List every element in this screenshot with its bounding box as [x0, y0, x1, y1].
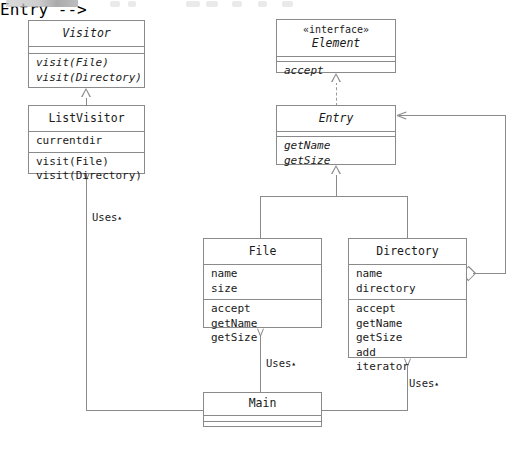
- class-box-element[interactable]: «interface» Element accept: [276, 19, 396, 73]
- method-item: add: [356, 346, 466, 361]
- class-box-listvisitor[interactable]: ListVisitor currentdir visit(File) visit…: [28, 105, 145, 174]
- class-name-directory: Directory: [349, 239, 466, 264]
- methods-compartment-entry: getName getSize: [277, 136, 395, 171]
- dependency-main-listvisitor-horizontal: [86, 410, 204, 411]
- methods-compartment-main: [204, 421, 321, 427]
- attribute-item: name: [211, 267, 321, 282]
- scan-ghost-mark: [128, 1, 136, 7]
- attribute-item: directory: [356, 282, 466, 297]
- dependency-main-listvisitor-vertical: [86, 182, 87, 410]
- dependency-main-directory-horizontal: [322, 410, 407, 411]
- class-name-listvisitor: ListVisitor: [29, 106, 144, 131]
- class-box-entry[interactable]: Entry getName getSize: [276, 105, 396, 165]
- aggregation-arrowhead-entry: [397, 111, 406, 120]
- class-box-file[interactable]: File name size accept getName getSize: [203, 238, 322, 328]
- scan-ghost-mark: [110, 1, 120, 7]
- scan-ghost-mark: [258, 1, 267, 7]
- method-item: getName: [356, 317, 466, 332]
- method-item: visit(Directory): [36, 169, 144, 184]
- methods-compartment-file: accept getName getSize: [204, 299, 321, 349]
- scan-ghost-mark: [282, 1, 293, 7]
- stereotype-interface: «interface»: [277, 23, 395, 36]
- generalization-file-branch: [260, 196, 261, 238]
- method-item: visit(Directory): [36, 71, 144, 86]
- method-item: getSize: [356, 331, 466, 346]
- method-item: getName: [211, 317, 321, 332]
- generalization-arrowhead-inner: [82, 90, 90, 98]
- method-item: getSize: [284, 154, 395, 169]
- methods-compartment-directory: accept getName getSize add iterator: [349, 299, 466, 378]
- uses-marker-icon: ▴: [291, 358, 296, 369]
- class-name-compartment: File: [204, 239, 321, 264]
- uses-marker-icon: ▴: [117, 212, 122, 223]
- scan-grey-bar: [6, 0, 78, 7]
- method-item: accept: [356, 302, 466, 317]
- attribute-item: size: [211, 282, 321, 297]
- class-box-main[interactable]: Main: [203, 392, 322, 427]
- class-name-compartment: Entry: [277, 106, 395, 131]
- uses-text: Uses: [409, 377, 434, 389]
- uses-text: Uses: [92, 211, 117, 223]
- methods-compartment-element: accept: [277, 61, 395, 82]
- method-item: visit(File): [36, 56, 144, 71]
- uses-marker-icon: ▴: [434, 378, 439, 389]
- class-name-compartment: «interface» Element: [277, 20, 395, 56]
- scan-ghost-mark: [232, 1, 242, 7]
- attributes-compartment-listvisitor: currentdir: [29, 131, 144, 152]
- uses-label-file: Uses▴: [266, 358, 296, 369]
- realization-entry-element-line: [336, 82, 337, 106]
- uses-label-directory: Uses▴: [409, 378, 439, 389]
- method-item: accept: [211, 302, 321, 317]
- method-item: getSize: [211, 331, 321, 346]
- generalization-crossbar: [260, 196, 408, 197]
- class-box-directory[interactable]: Directory name directory accept getName …: [348, 238, 467, 358]
- class-name-main: Main: [204, 393, 321, 415]
- methods-compartment-visitor: visit(File) visit(Directory): [29, 53, 144, 88]
- generalization-directory-branch: [407, 196, 408, 238]
- aggregation-segment-right: [473, 273, 505, 274]
- method-item: accept: [284, 64, 395, 79]
- scan-artifact-strip: [0, 0, 525, 10]
- scan-ghost-mark: [186, 1, 200, 7]
- method-item: getName: [284, 139, 395, 154]
- class-name-compartment: Visitor: [29, 21, 144, 46]
- class-name-element: Element: [277, 36, 395, 53]
- attributes-compartment-directory: name directory: [349, 264, 466, 299]
- class-name-visitor: Visitor: [29, 21, 144, 46]
- attribute-item: name: [356, 267, 466, 282]
- scan-ghost-mark: [206, 1, 218, 7]
- generalization-entry-stem: [336, 174, 337, 196]
- class-name-compartment: Main: [204, 393, 321, 415]
- uses-label-listvisitor: Uses▴: [92, 212, 122, 223]
- class-name-entry: Entry: [277, 106, 395, 131]
- method-item: visit(File): [36, 155, 144, 170]
- attributes-compartment-visitor: [29, 46, 144, 53]
- attribute-item: currentdir: [36, 134, 144, 149]
- class-name-compartment: ListVisitor: [29, 106, 144, 131]
- aggregation-segment-up: [505, 115, 506, 274]
- attributes-compartment-file: name size: [204, 264, 321, 299]
- methods-compartment-listvisitor: visit(File) visit(Directory): [29, 152, 144, 187]
- class-box-visitor[interactable]: Visitor visit(File) visit(Directory): [28, 20, 145, 88]
- uses-text: Uses: [266, 357, 291, 369]
- class-name-compartment: Directory: [349, 239, 466, 264]
- class-name-file: File: [204, 239, 321, 264]
- uml-class-diagram: Entry --> Uses▴ Uses▴ Uses▴ Visitor: [0, 0, 525, 451]
- method-item: iterator: [356, 360, 466, 375]
- aggregation-segment-top: [399, 115, 506, 116]
